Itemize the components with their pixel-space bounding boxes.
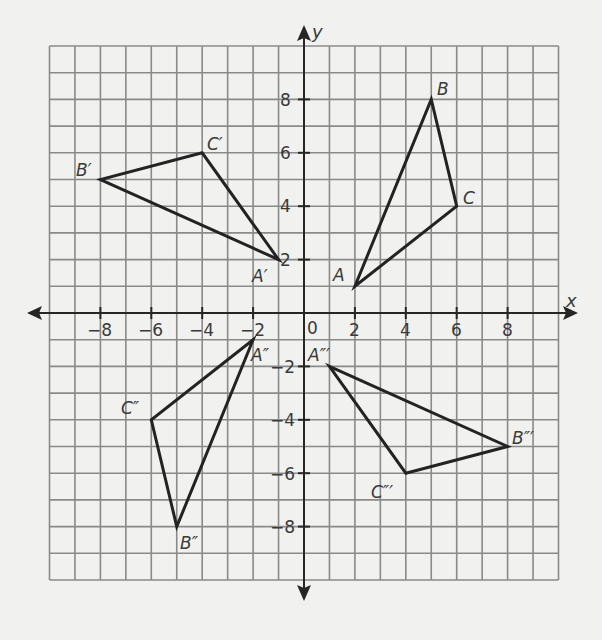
x-tick-label: 8 (502, 320, 513, 340)
label-A-double-prime: A″ (250, 345, 270, 365)
y-tick-label: −8 (270, 517, 295, 537)
x-tick-label: −2 (240, 320, 265, 340)
x-tick-label: 6 (451, 320, 462, 340)
label-B-triple-prime: B″′ (512, 428, 534, 448)
origin-label: 0 (307, 318, 318, 338)
y-tick-label: 2 (280, 250, 291, 270)
y-tick-label: 6 (280, 143, 291, 163)
label-B-prime: B′ (76, 160, 92, 180)
y-tick-label: 4 (280, 196, 291, 216)
y-tick-label: −6 (270, 464, 295, 484)
x-tick-labels: −8 −6 −4 −2 2 4 6 8 (87, 320, 513, 340)
x-axis (27, 306, 578, 320)
label-C-triple-prime: C″′ (371, 482, 393, 502)
label-C-double-prime: C″ (121, 398, 140, 418)
label-A-triple-prime: A″′ (307, 345, 330, 365)
x-tick-label: −4 (189, 320, 214, 340)
x-tick-label: −8 (87, 320, 112, 340)
coordinate-plane: y x −8 −6 −4 −2 2 4 6 8 0 8 6 4 2 −2 −4 … (0, 0, 602, 640)
x-tick-label: −6 (138, 320, 163, 340)
label-A-prime: A′ (251, 266, 268, 286)
label-B: B (437, 79, 449, 99)
x-axis-label: x (565, 290, 577, 311)
x-tick-label: 4 (400, 320, 411, 340)
y-tick-label: −2 (270, 357, 295, 377)
y-tick-label: 8 (280, 90, 291, 110)
label-A: A (332, 265, 345, 285)
x-tick-label: 2 (349, 320, 360, 340)
vertex-labels: A B C A′ B′ C′ A″ B″ C″ A″′ B″′ C″′ (76, 79, 534, 553)
label-C: C (463, 188, 475, 208)
label-B-double-prime: B″ (180, 533, 199, 553)
y-tick-label: −4 (270, 410, 295, 430)
label-C-prime: C′ (207, 134, 223, 154)
y-axis-label: y (311, 21, 323, 42)
